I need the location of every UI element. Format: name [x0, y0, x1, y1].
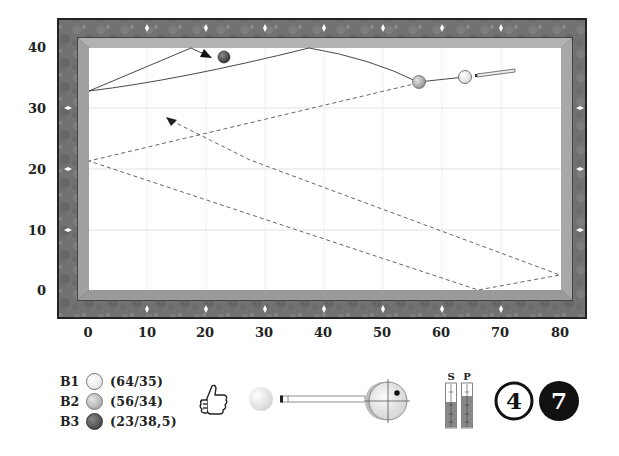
svg-text:20: 20 — [28, 162, 46, 177]
svg-text:70: 70 — [491, 325, 509, 340]
badge-filled: 7 — [539, 381, 579, 421]
svg-text:30: 30 — [28, 101, 46, 116]
svg-text:20: 20 — [196, 325, 214, 340]
legend-coord: (56/34) — [110, 394, 163, 409]
legend-coord: (64/35) — [110, 374, 163, 389]
power-gauge[interactable] — [462, 383, 473, 428]
svg-text:0: 0 — [37, 283, 46, 298]
svg-text:7: 7 — [551, 387, 567, 414]
svg-text:10: 10 — [28, 223, 46, 238]
legend-key: B2 — [60, 394, 86, 409]
ball-b3[interactable] — [218, 51, 230, 63]
legend-key: B3 — [60, 414, 86, 429]
legend-row-b1: B1 (64/35) — [60, 371, 177, 391]
cue-icon — [281, 396, 365, 402]
cue-stroke-icon[interactable] — [248, 385, 366, 415]
ball-b1-swatch — [86, 373, 103, 390]
badge-outline: 4 — [496, 383, 532, 419]
spin-point-icon — [394, 390, 399, 395]
svg-text:10: 10 — [138, 325, 156, 340]
billiard-table: 40 30 20 10 0 0 10 20 30 40 50 60 70 80 — [0, 0, 619, 340]
legend-row-b2: B2 (56/34) — [60, 391, 177, 411]
svg-text:40: 40 — [28, 40, 46, 55]
svg-text:0: 0 — [83, 325, 92, 340]
ball-spin-target-icon[interactable] — [362, 377, 412, 425]
svg-text:30: 30 — [255, 325, 273, 340]
power-label: P — [463, 371, 471, 382]
legend-coord: (23/38,5) — [110, 414, 177, 429]
x-axis-labels: 0 10 20 30 40 50 60 70 80 — [83, 325, 569, 340]
ball-b1[interactable] — [459, 71, 472, 84]
legend-key: B1 — [60, 374, 86, 389]
score-badges: 4 7 — [493, 380, 583, 422]
speed-gauge[interactable] — [446, 383, 457, 428]
svg-text:40: 40 — [314, 325, 332, 340]
ball-b3-swatch — [86, 413, 103, 430]
legend-row-b3: B3 (23/38,5) — [60, 411, 177, 431]
svg-text:80: 80 — [551, 325, 569, 340]
svg-text:60: 60 — [432, 325, 450, 340]
y-axis-labels: 40 30 20 10 0 — [28, 40, 46, 298]
ball-legend: B1 (64/35) B2 (56/34) B3 (23/38,5) — [60, 371, 177, 431]
thumbs-up-icon[interactable] — [198, 382, 230, 418]
speed-power-gauges: S P — [443, 370, 477, 430]
speed-label: S — [447, 371, 454, 382]
ball-b2[interactable] — [413, 76, 426, 89]
cue-ball-icon — [249, 387, 273, 411]
svg-text:4: 4 — [506, 387, 522, 414]
ball-b2-swatch — [86, 393, 103, 410]
svg-text:50: 50 — [373, 325, 391, 340]
